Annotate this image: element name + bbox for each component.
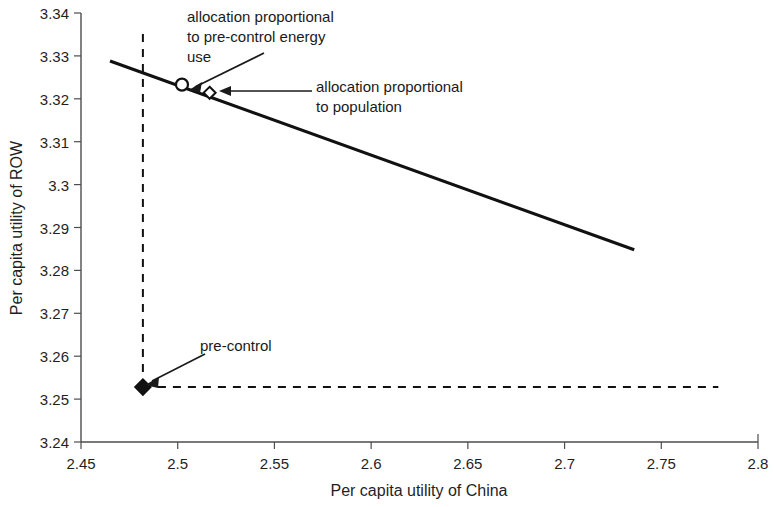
precontrol-leader-line bbox=[152, 354, 205, 381]
x-tick-label: 2.6 bbox=[361, 455, 382, 472]
annotation-population: allocation proportional to population bbox=[316, 78, 463, 115]
y-tick-label: 3.29 bbox=[40, 220, 69, 237]
x-axis-title: Per capita utility of China bbox=[331, 482, 508, 499]
annotation-energy: allocation proportional to pre-control e… bbox=[187, 8, 334, 65]
x-tick-label: 2.75 bbox=[647, 455, 676, 472]
x-tick-label: 2.65 bbox=[453, 455, 482, 472]
population-arrowhead bbox=[219, 86, 231, 96]
annotation-energy-line1: allocation proportional bbox=[187, 8, 334, 25]
marker-open-circle bbox=[176, 79, 188, 91]
y-tick-label: 3.3 bbox=[48, 177, 69, 194]
y-tick-label: 3.24 bbox=[40, 434, 69, 451]
x-tick-label: 2.8 bbox=[748, 455, 769, 472]
utility-frontier-chart: 3.243.253.263.273.283.293.33.313.323.333… bbox=[0, 0, 774, 507]
annotation-population-line2: to population bbox=[316, 98, 402, 115]
y-axis-title: Per capita utility of ROW bbox=[8, 140, 25, 315]
y-tick-label: 3.27 bbox=[40, 305, 69, 322]
y-tick-label: 3.34 bbox=[40, 5, 69, 22]
x-tick-label: 2.7 bbox=[554, 455, 575, 472]
y-tick-label: 3.26 bbox=[40, 348, 69, 365]
x-tick-label: 2.45 bbox=[66, 455, 95, 472]
x-tick-label: 2.5 bbox=[167, 455, 188, 472]
marker-filled-diamond bbox=[135, 379, 151, 395]
annotation-precontrol-line1: pre-control bbox=[200, 337, 272, 354]
y-tick-label: 3.28 bbox=[40, 262, 69, 279]
x-tick-label: 2.55 bbox=[260, 455, 289, 472]
annotation-population-line1: allocation proportional bbox=[316, 78, 463, 95]
annotation-precontrol: pre-control bbox=[200, 337, 272, 354]
y-axis-ticks: 3.243.253.263.273.283.293.33.313.323.333… bbox=[40, 5, 81, 451]
annotation-energy-line2: to pre-control energy bbox=[187, 28, 326, 45]
chart-figure: 3.243.253.263.273.283.293.33.313.323.333… bbox=[0, 0, 774, 507]
y-tick-label: 3.33 bbox=[40, 48, 69, 65]
annotation-energy-line3: use bbox=[187, 48, 211, 65]
y-tick-label: 3.25 bbox=[40, 391, 69, 408]
y-tick-label: 3.31 bbox=[40, 134, 69, 151]
x-axis-ticks: 2.452.52.552.62.652.72.752.8 bbox=[66, 442, 768, 472]
y-tick-label: 3.32 bbox=[40, 91, 69, 108]
